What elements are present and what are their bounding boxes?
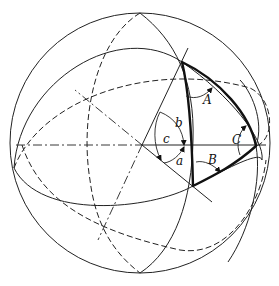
great-circle-back-2 — [22, 145, 266, 251]
meridian-dashed — [87, 13, 140, 273]
figure-canvas: A B C a b c — [0, 0, 279, 286]
angle-c-arc — [155, 112, 161, 160]
label-c: c — [163, 132, 170, 146]
label-b: b — [175, 116, 183, 130]
great-circle-front-1 — [14, 48, 262, 168]
label-C: C — [232, 133, 241, 147]
spherical-triangle-figure: A B C a b c — [0, 0, 279, 286]
radius-back-dashdot-bottom — [75, 90, 142, 145]
label-A: A — [202, 93, 212, 107]
label-a: a — [176, 154, 183, 168]
great-circle-front-2 — [14, 157, 262, 205]
label-B: B — [207, 153, 217, 167]
radius-back-dashdot-top — [98, 145, 142, 240]
great-circle-back-1 — [14, 79, 270, 168]
